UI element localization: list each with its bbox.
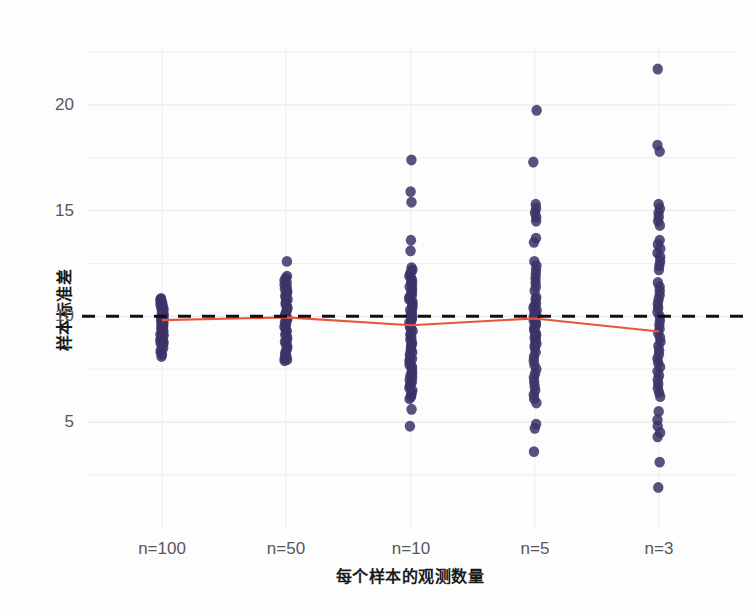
- y-axis-tick-label: 5: [40, 412, 74, 432]
- y-axis-tick-label: 15: [40, 201, 74, 221]
- x-axis-tick-label: n=50: [267, 539, 305, 559]
- y-axis-tick-label: 10: [40, 306, 74, 326]
- scatter-plot-canvas: [0, 0, 754, 613]
- x-axis-tick-label: n=100: [138, 539, 186, 559]
- chart-figure: 样本标准差 每个样本的观测数量 5101520n=100n=50n=10n=5n…: [0, 0, 754, 613]
- x-axis-title: 每个样本的观测数量: [336, 563, 485, 587]
- x-axis-tick-label: n=5: [521, 539, 550, 559]
- y-axis-tick-label: 20: [40, 95, 74, 115]
- x-axis-tick-label: n=10: [392, 539, 430, 559]
- x-axis-tick-label: n=3: [645, 539, 674, 559]
